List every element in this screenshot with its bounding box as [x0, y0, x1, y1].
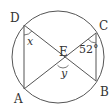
point-label-A: A — [13, 92, 23, 106]
point-label-D: D — [10, 11, 20, 25]
circle — [12, 11, 104, 103]
geometry-diagram: D C A B E x 52° y — [0, 0, 112, 110]
angle-label-x: x — [27, 35, 34, 48]
segment-CA — [24, 33, 96, 89]
angle-label-y: y — [60, 67, 68, 80]
point-label-E: E — [59, 45, 68, 59]
point-label-C: C — [99, 19, 108, 33]
point-label-B: B — [100, 85, 109, 99]
angle-label-52: 52° — [79, 43, 99, 56]
